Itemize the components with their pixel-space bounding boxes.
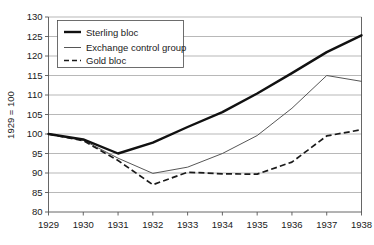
x-tick-label-1935: 1935 [247, 219, 268, 230]
y-tick-label-120: 120 [27, 50, 43, 61]
chart-canvas: 80859095100105110115120125130 1929193019… [0, 0, 374, 245]
chart-legend: Sterling bloc Exchange control group Gol… [58, 21, 187, 68]
x-tick-label-1931: 1931 [107, 219, 128, 230]
y-tick-label-80: 80 [32, 206, 43, 217]
x-tick-label-1932: 1932 [142, 219, 163, 230]
x-tick-label-1934: 1934 [212, 219, 233, 230]
x-tick-label-1933: 1933 [177, 219, 198, 230]
y-axis-title: 1929 = 100 [5, 91, 16, 139]
y-tick-label-110: 110 [27, 89, 42, 100]
y-tick-label-115: 115 [27, 70, 42, 81]
legend-label-exchange-control-group: Exchange control group [86, 42, 186, 53]
line-chart: 80859095100105110115120125130 1929193019… [0, 0, 374, 245]
y-tick-label-90: 90 [32, 167, 43, 178]
x-tick-label-1929: 1929 [38, 219, 59, 230]
y-tick-label-95: 95 [32, 148, 43, 159]
x-tick-label-1938: 1938 [351, 219, 372, 230]
y-tick-label-130: 130 [27, 11, 43, 22]
legend-label-gold-bloc: Gold bloc [86, 55, 126, 66]
legend-label-sterling-bloc: Sterling bloc [86, 27, 139, 38]
y-tick-label-105: 105 [27, 109, 43, 120]
x-tick-label-1930: 1930 [73, 219, 94, 230]
x-tick-label-1936: 1936 [281, 219, 302, 230]
y-tick-label-85: 85 [32, 187, 43, 198]
y-tick-label-125: 125 [27, 31, 43, 42]
y-tick-label-100: 100 [27, 128, 43, 139]
x-tick-label-1937: 1937 [316, 219, 337, 230]
